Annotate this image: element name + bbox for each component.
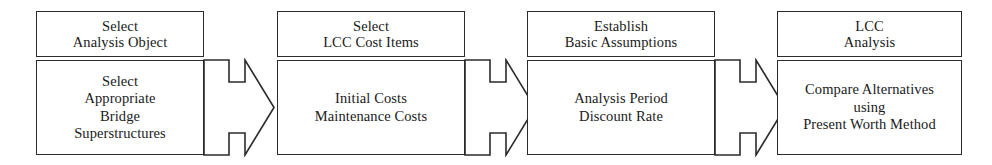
flow-stage-select-lcc-cost-items: Select LCC Cost Items Initial Costs Main… [277,0,465,165]
stage-body-box: Analysis Period Discount Rate [527,60,715,155]
stage-header-line: Select [353,18,389,34]
stage-body-line: using [854,99,886,116]
stage-header-line: Analysis Object [73,34,168,50]
stage-body-line: Compare Alternatives [805,81,934,98]
stage-body-line: Superstructures [74,125,166,142]
flow-stage-establish-basic-assumptions: Establish Basic Assumptions Analysis Per… [527,0,715,165]
stage-body-line: Maintenance Costs [315,108,427,125]
stage-body-line: Present Worth Method [803,116,936,133]
stage-body-line: Analysis Period [574,90,668,107]
stage-body-line: Select [102,73,138,90]
stage-header-line: Select [102,18,138,34]
stage-header-box: LCC Analysis [777,11,962,57]
flow-stage-select-analysis-object: Select Analysis Object Select Appropriat… [36,0,204,165]
stage-body-line: Appropriate [84,90,155,107]
stage-header-line: Establish [594,18,648,34]
stage-body-line: Discount Rate [579,108,663,125]
stage-body-line: Bridge [100,108,140,125]
flow-stage-lcc-analysis: LCC Analysis Compare Alternatives using … [777,0,962,165]
stage-body-box: Compare Alternatives using Present Worth… [777,60,962,155]
stage-header-line: LCC Cost Items [323,34,419,50]
stage-header-line: Analysis [844,34,896,50]
stage-body-box: Initial Costs Maintenance Costs [277,60,465,155]
stage-body-box: Select Appropriate Bridge Superstructure… [36,60,204,155]
stage-header-box: Establish Basic Assumptions [527,11,715,57]
stage-body-line: Initial Costs [335,90,407,107]
flow-diagram: Select Analysis Object Select Appropriat… [0,0,992,165]
stage-header-line: Basic Assumptions [565,34,677,50]
stage-header-box: Select Analysis Object [36,11,204,57]
stage-header-line: LCC [855,18,884,34]
stage-header-box: Select LCC Cost Items [277,11,465,57]
right-arrow-icon [203,58,281,157]
